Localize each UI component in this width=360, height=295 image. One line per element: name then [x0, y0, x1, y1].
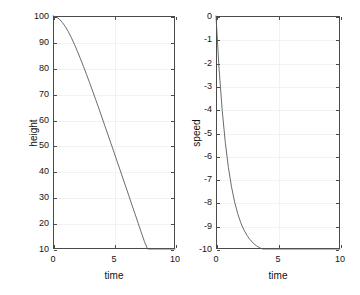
- y-tick-label: -10: [188, 245, 212, 254]
- y-axis-title-speed: speed: [192, 103, 202, 163]
- x-axis-title-time-right: time: [216, 271, 340, 281]
- y-tick-label: -7: [188, 175, 212, 184]
- y-tick-label: -2: [188, 59, 212, 68]
- y-tick-label: 0: [188, 12, 212, 21]
- y-tick-label: -1: [188, 35, 212, 44]
- y-tick-label: -3: [188, 82, 212, 91]
- x-tick-label: 5: [263, 255, 293, 264]
- data-line-speed: [216, 16, 340, 249]
- speed-curve: [0, 0, 360, 295]
- x-tick-label: 0: [201, 255, 231, 264]
- y-tick-label: -8: [188, 198, 212, 207]
- y-tick-label: -9: [188, 222, 212, 231]
- matlab-figure-canvas: 102030405060708090100 0510 height time -…: [0, 0, 360, 295]
- x-tick-label: 10: [325, 255, 355, 264]
